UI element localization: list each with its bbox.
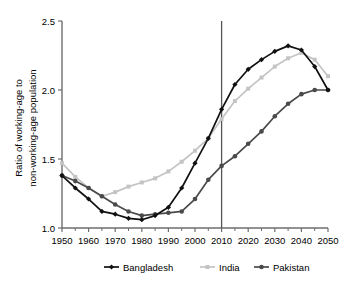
x-tick-label: 1950 bbox=[51, 235, 72, 246]
data-series bbox=[59, 43, 330, 222]
y-axis-title-line1: Ratio of working-age to bbox=[13, 79, 24, 177]
x-tick-label: 2050 bbox=[317, 235, 338, 246]
x-tick-label: 1960 bbox=[78, 235, 99, 246]
legend-item-label: Bangladesh bbox=[123, 262, 173, 273]
y-axis-ticks: 1.01.52.02.5 bbox=[42, 16, 62, 234]
data-point-marker bbox=[246, 87, 250, 91]
data-point-marker bbox=[113, 212, 118, 217]
data-point-marker bbox=[86, 186, 91, 191]
data-point-marker bbox=[140, 180, 144, 184]
x-tick-label: 1970 bbox=[105, 235, 126, 246]
data-point-marker bbox=[109, 264, 114, 269]
series-line bbox=[62, 46, 328, 220]
data-point-marker bbox=[113, 202, 118, 207]
data-point-marker bbox=[273, 114, 278, 119]
data-point-marker bbox=[153, 176, 157, 180]
y-axis-title: Ratio of working-age to non-working-age … bbox=[13, 69, 38, 186]
data-point-marker bbox=[60, 161, 64, 165]
data-point-marker bbox=[179, 209, 184, 214]
data-point-marker bbox=[73, 175, 77, 179]
data-point-marker bbox=[126, 216, 131, 221]
chart-legend[interactable]: BangladeshIndiaPakistan bbox=[104, 262, 309, 273]
y-tick-label: 2.0 bbox=[42, 85, 55, 96]
data-point-marker bbox=[166, 169, 170, 173]
data-point-marker bbox=[193, 149, 197, 153]
data-point-marker bbox=[193, 197, 198, 202]
x-tick-label: 2020 bbox=[238, 235, 259, 246]
y-tick-label: 1.0 bbox=[42, 223, 55, 234]
y-tick-label: 2.5 bbox=[42, 16, 55, 27]
legend-item-label: India bbox=[219, 262, 240, 273]
data-point-marker bbox=[313, 58, 317, 62]
data-point-marker bbox=[166, 211, 171, 216]
x-tick-label: 1980 bbox=[131, 235, 152, 246]
data-point-marker bbox=[126, 209, 131, 214]
data-point-marker bbox=[206, 265, 210, 269]
data-point-marker bbox=[259, 129, 264, 134]
data-point-marker bbox=[127, 185, 131, 189]
data-point-marker bbox=[246, 142, 251, 147]
legend-item-label: Pakistan bbox=[273, 262, 309, 273]
data-point-marker bbox=[220, 117, 224, 121]
data-point-marker bbox=[219, 164, 224, 169]
data-point-marker bbox=[233, 99, 237, 103]
data-point-marker bbox=[259, 265, 264, 270]
data-point-marker bbox=[286, 43, 291, 48]
x-tick-label: 2040 bbox=[291, 235, 312, 246]
data-point-marker bbox=[100, 194, 105, 199]
data-point-marker bbox=[260, 76, 264, 80]
data-point-marker bbox=[113, 190, 117, 194]
series-pakistan bbox=[60, 88, 331, 218]
data-point-marker bbox=[233, 154, 238, 159]
data-point-marker bbox=[180, 160, 184, 164]
data-point-marker bbox=[326, 74, 330, 78]
y-tick-label: 1.5 bbox=[42, 154, 55, 165]
x-tick-label: 2010 bbox=[211, 235, 232, 246]
data-point-marker bbox=[273, 65, 277, 69]
legend-item-india[interactable]: India bbox=[200, 262, 240, 273]
data-point-marker bbox=[312, 88, 317, 93]
data-point-marker bbox=[299, 92, 304, 97]
data-point-marker bbox=[206, 177, 211, 182]
line-chart: Ratio of working-age to non-working-age … bbox=[0, 0, 357, 289]
data-point-marker bbox=[286, 102, 291, 107]
series-india bbox=[60, 51, 330, 199]
x-tick-label: 1990 bbox=[158, 235, 179, 246]
legend-item-pakistan[interactable]: Pakistan bbox=[254, 262, 309, 273]
legend-item-bangladesh[interactable]: Bangladesh bbox=[104, 262, 173, 273]
x-tick-label: 2030 bbox=[264, 235, 285, 246]
x-axis-ticks: 1950196019701980199020002010202020302040… bbox=[51, 228, 338, 246]
data-point-marker bbox=[286, 56, 290, 60]
chart-figure: Ratio of working-age to non-working-age … bbox=[0, 0, 357, 289]
data-point-marker bbox=[73, 179, 78, 184]
data-point-marker bbox=[139, 217, 144, 222]
y-axis-title-line2: non-working-age population bbox=[27, 69, 38, 186]
x-tick-label: 2000 bbox=[184, 235, 205, 246]
series-line bbox=[62, 53, 328, 197]
